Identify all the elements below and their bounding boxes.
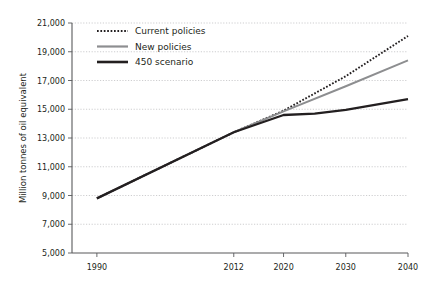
- y-tick-label: 19,000: [37, 48, 65, 57]
- x-tick-label: 2030: [336, 263, 356, 272]
- y-tick-label: 21,000: [37, 19, 65, 28]
- y-tick-labels-group: 5,0007,0009,00011,00013,00015,00017,0001…: [37, 19, 65, 258]
- line-chart: 5,0007,0009,00011,00013,00015,00017,0001…: [0, 0, 434, 293]
- y-tick-label: 13,000: [37, 134, 65, 143]
- x-tick-label: 1990: [87, 263, 107, 272]
- chart-background: [0, 0, 434, 293]
- x-tick-label: 2040: [398, 263, 418, 272]
- y-tick-label: 7,000: [42, 220, 65, 229]
- y-tick-label: 15,000: [37, 105, 65, 114]
- chart-figure: 5,0007,0009,00011,00013,00015,00017,0001…: [0, 0, 434, 293]
- legend-label-new-policies: New policies: [135, 42, 192, 52]
- y-tick-label: 9,000: [42, 192, 65, 201]
- y-tick-label: 11,000: [37, 163, 65, 172]
- x-tick-label: 2020: [273, 263, 293, 272]
- x-tick-label: 2012: [224, 263, 244, 272]
- y-axis-title: Million tonnes of oil equivalent: [18, 72, 28, 203]
- y-tick-label: 5,000: [42, 249, 65, 258]
- y-tick-label: 17,000: [37, 77, 65, 86]
- legend-label-current-policies: Current policies: [135, 26, 206, 36]
- legend-label-450-scenario: 450 scenario: [135, 57, 194, 67]
